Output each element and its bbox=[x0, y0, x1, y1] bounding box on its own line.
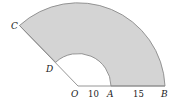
label-a: A bbox=[106, 89, 114, 99]
label-c: C bbox=[11, 21, 18, 31]
measure-oa: 10 bbox=[88, 89, 99, 99]
measure-ab: 15 bbox=[133, 89, 144, 99]
shaded-region bbox=[20, 3, 166, 86]
label-d: D bbox=[45, 64, 53, 74]
label-o: O bbox=[71, 89, 79, 99]
annular-sector-diagram: C D O A B 10 15 bbox=[0, 0, 179, 106]
label-b: B bbox=[160, 89, 168, 99]
